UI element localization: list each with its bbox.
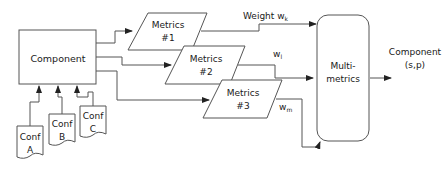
arrow-config-c — [77, 86, 93, 106]
component-label: Component — [30, 53, 85, 64]
metrics-1-line2: #1 — [161, 33, 174, 43]
config-a-line2: A — [27, 145, 34, 155]
multimetrics-diagram: Component Conf A Conf B Conf C Metrics #… — [0, 0, 448, 170]
metrics-1-box: Metrics #1 — [128, 13, 207, 50]
weight-m-label: wm — [279, 102, 292, 113]
multimetrics-line2: metrics — [326, 74, 360, 84]
config-a-line1: Conf — [20, 132, 41, 142]
config-a-document: Conf A — [17, 126, 43, 158]
config-c-line1: Conf — [83, 111, 104, 121]
config-b-line2: B — [59, 132, 65, 142]
metrics-1-line1: Metrics — [152, 20, 185, 30]
config-b-document: Conf B — [49, 114, 75, 145]
arrow-config-b — [58, 86, 62, 114]
metrics-2-box: Metrics #2 — [165, 46, 245, 84]
metrics-2-line2: #2 — [199, 67, 212, 77]
metrics-3-box: Metrics #3 — [203, 80, 282, 118]
weight-k-label: Weight wk — [243, 11, 289, 22]
metrics-3-line1: Metrics — [227, 88, 260, 98]
arrow-to-metrics-1 — [96, 31, 132, 43]
output-line1: Component — [389, 47, 442, 57]
arrow-weight-l — [238, 65, 313, 78]
component-box: Component — [19, 30, 96, 84]
config-c-document: Conf C — [80, 106, 106, 137]
metrics-3-line2: #3 — [236, 101, 249, 111]
metrics-2-line1: Metrics — [190, 54, 223, 64]
output-line2: (s,p) — [405, 60, 425, 70]
weight-l-label: wl — [273, 49, 282, 60]
multimetrics-line1: Multi- — [330, 61, 355, 71]
arrow-to-metrics-2 — [96, 57, 171, 65]
config-c-line2: C — [90, 124, 96, 134]
arrow-weight-k — [201, 24, 316, 31]
multimetrics-box: Multi- metrics — [317, 15, 369, 141]
config-b-line1: Conf — [52, 119, 73, 129]
arrow-config-a — [30, 86, 39, 126]
